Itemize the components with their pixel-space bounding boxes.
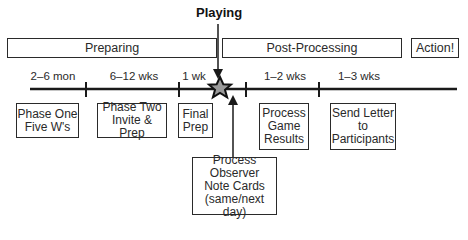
star-icon	[209, 77, 231, 97]
step-process-game-results: Process Game Results	[259, 103, 309, 150]
step-final-prep-label: Final Prep	[182, 108, 208, 134]
step-phase-two-label: Phase Two Invite & Prep	[98, 101, 166, 140]
step-phase-one: Phase One Five W's	[16, 103, 79, 138]
arrow-down-icon	[213, 24, 223, 79]
step-process-game-results-label: Process Game Results	[262, 107, 305, 146]
step-process-observer-note-cards: Process Observer Note Cards (same/next d…	[192, 157, 277, 215]
step-send-letter-label: Send Letter to Participants	[332, 107, 395, 146]
arrow-up-icon	[228, 95, 238, 157]
step-note-cards-label: Process Observer Note Cards (same/next d…	[193, 154, 276, 219]
step-phase-two: Phase Two Invite & Prep	[97, 103, 167, 138]
step-phase-one-label: Phase One Five W's	[17, 108, 77, 134]
step-final-prep: Final Prep	[178, 103, 213, 138]
step-send-letter: Send Letter to Participants	[330, 103, 396, 150]
